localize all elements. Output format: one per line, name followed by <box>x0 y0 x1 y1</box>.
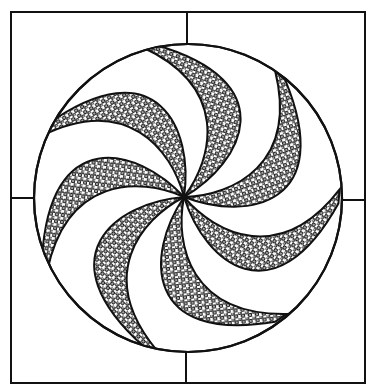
spiral-center-point <box>182 195 187 200</box>
spiral-pinwheel-artwork <box>0 0 375 390</box>
